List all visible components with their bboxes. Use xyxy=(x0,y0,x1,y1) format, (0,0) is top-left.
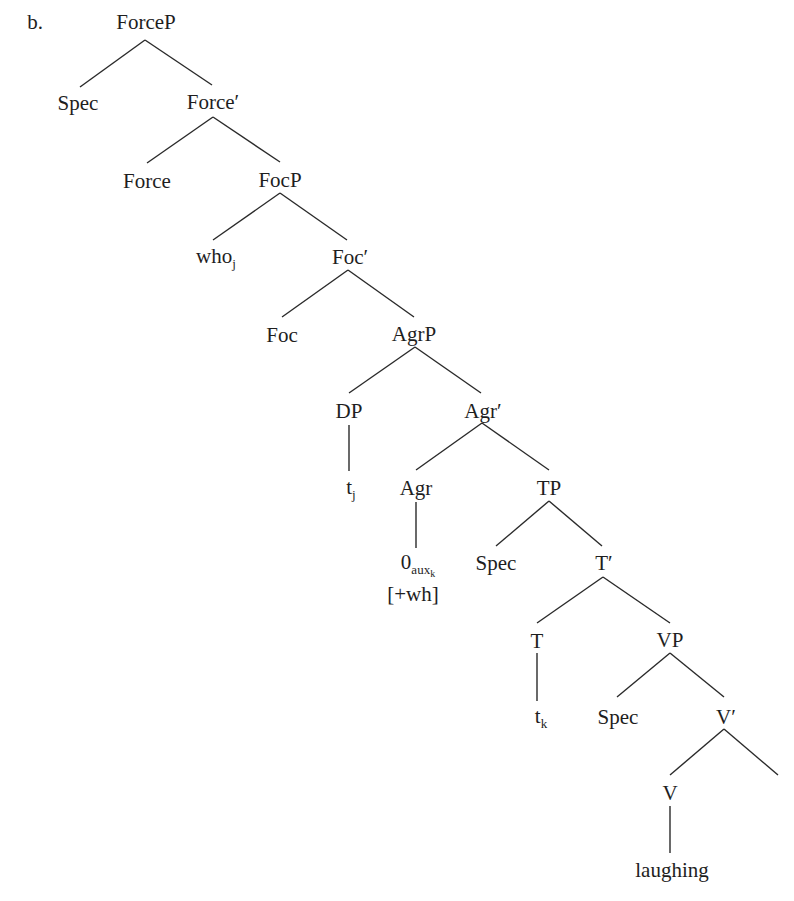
branch xyxy=(482,423,549,470)
node-v-bar: V′ xyxy=(716,707,736,728)
branch xyxy=(416,423,482,470)
node-forcep: ForceP xyxy=(116,12,176,33)
branch xyxy=(670,653,724,697)
node-who: whoj xyxy=(196,246,236,270)
node-who-text: who xyxy=(196,244,232,268)
branch xyxy=(80,40,145,87)
branch xyxy=(537,577,603,623)
branch xyxy=(213,193,280,240)
node-laughing: laughing xyxy=(635,860,709,881)
node-agr-bar: Agr′ xyxy=(464,401,501,422)
node-agr: Agr xyxy=(400,478,433,499)
node-null-aux: 0auxk xyxy=(401,552,435,579)
node-trace-k: tk xyxy=(535,706,547,730)
tree-branches xyxy=(0,0,794,901)
node-tp: TP xyxy=(537,478,562,499)
branch xyxy=(282,270,348,317)
node-foc: Foc xyxy=(266,325,298,346)
branch xyxy=(549,501,602,546)
node-t: T xyxy=(531,631,544,652)
branch xyxy=(280,193,347,240)
node-foc-bar: Foc′ xyxy=(332,247,368,268)
node-null-aux-index: k xyxy=(430,568,435,579)
node-vp: VP xyxy=(657,630,684,651)
example-label: b. xyxy=(27,12,43,33)
branch xyxy=(213,117,280,162)
node-t-bar: T′ xyxy=(595,553,612,574)
node-null-aux-sub: auxk xyxy=(411,562,435,577)
node-force-bar: Force′ xyxy=(187,92,239,113)
node-spec-tp: Spec xyxy=(476,553,517,574)
branch xyxy=(348,270,414,317)
branch xyxy=(603,577,670,623)
branch xyxy=(147,117,213,163)
node-force: Force xyxy=(123,171,171,192)
node-v: V xyxy=(662,783,677,804)
branch xyxy=(617,653,670,697)
node-agrp: AgrP xyxy=(392,324,436,345)
branch xyxy=(496,501,549,546)
node-spec-force: Spec xyxy=(58,93,99,114)
node-trace-j-index: j xyxy=(352,487,356,502)
node-trace-k-index: k xyxy=(541,716,548,731)
branch xyxy=(724,729,778,775)
branch xyxy=(415,347,481,393)
branch xyxy=(145,40,212,85)
syntax-tree-diagram: b. ForceP Spec Force′ Force FocP whoj Fo… xyxy=(0,0,794,901)
branch xyxy=(349,347,415,393)
node-null-aux-label: aux xyxy=(411,562,430,577)
node-trace-j: tj xyxy=(346,477,355,501)
node-focp: FocP xyxy=(258,170,301,191)
node-spec-vp: Spec xyxy=(598,707,639,728)
node-null-aux-text: 0 xyxy=(401,550,412,574)
node-who-index: j xyxy=(232,256,236,271)
branch xyxy=(670,729,724,775)
node-wh-feature: [+wh] xyxy=(387,584,439,605)
node-dp: DP xyxy=(336,401,363,422)
